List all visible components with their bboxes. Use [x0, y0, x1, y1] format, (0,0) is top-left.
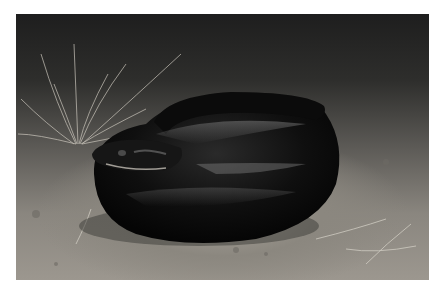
snake-eye	[118, 150, 126, 156]
photo-scene	[16, 14, 429, 280]
snake-photo	[16, 14, 429, 280]
